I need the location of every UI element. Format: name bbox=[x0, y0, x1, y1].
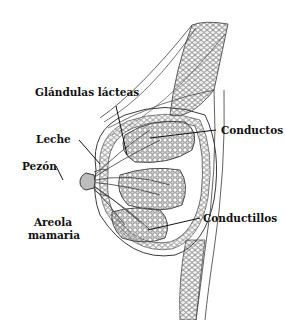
lobule-middle bbox=[119, 168, 186, 210]
label-conductos: Conductos bbox=[221, 124, 283, 136]
label-conductillos: Conductillos bbox=[203, 212, 277, 224]
label-leche: Leche bbox=[36, 133, 71, 145]
label-areola-line1: Areola bbox=[28, 216, 78, 228]
breast-anatomy-diagram: Glándulas lácteas Leche Pezón Areola mam… bbox=[0, 0, 285, 320]
label-glandulas-lacteas: Glándulas lácteas bbox=[35, 86, 139, 98]
leader-pezon bbox=[56, 166, 63, 180]
label-pezon: Pezón bbox=[22, 160, 57, 172]
lobule-lower bbox=[112, 208, 168, 242]
label-areola-line2: mamaria bbox=[28, 229, 78, 241]
